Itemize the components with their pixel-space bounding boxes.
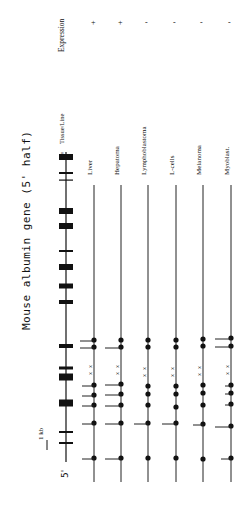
hypersensitive-site-dot [228,390,233,395]
hypersensitive-site-dot [173,420,178,425]
exon-block [59,172,73,174]
hypersensitive-site-dot [145,383,150,388]
hypersensitive-site-dot [173,404,178,409]
hypersensitive-site-dot [118,344,123,349]
hypersensitive-site-dot [173,455,178,460]
hypersensitive-site-dot [173,383,178,388]
hypersensitive-site-dot [200,456,205,461]
figure-title: Mouse albumin gene (5' half) [20,131,33,330]
x-marker: x [114,365,120,368]
x-marker: x [196,373,202,376]
hypersensitive-site-dot [145,337,150,342]
tissue-label: Hepatoma [113,146,121,175]
hypersensitive-site-dot [228,335,233,340]
hypersensitive-site-dot [145,402,150,407]
x-marker: x [169,374,175,377]
exon-block [59,367,73,370]
exon-block [59,300,73,304]
five-prime-label: 5' [60,470,70,478]
tissue-column-header: Tissue/Line [58,114,65,144]
hypersensitive-site-dot [173,391,178,396]
tissue-label: Melanoma [195,145,203,175]
exon-block [59,374,73,381]
x-marker: x [87,372,93,375]
hypersensitive-site-dot [200,382,205,387]
hypersensitive-site-dot [200,336,205,341]
expression-value: - [173,18,176,27]
hypersensitive-site-dot [200,343,205,348]
hypersensitive-site-dot [145,420,150,425]
hypersensitive-site-dot [228,343,233,348]
exon-block [59,431,73,433]
hypersensitive-site-dot [228,423,233,428]
x-marker: x [196,366,202,369]
hypersensitive-site-dot [200,421,205,426]
hypersensitive-site-dot [118,455,123,460]
expression-value: + [91,18,96,27]
hypersensitive-site-dot [91,382,96,387]
hypersensitive-site-dot [200,390,205,395]
exon-block [59,284,73,289]
expression-value: - [145,18,148,27]
hypersensitive-site-dot [91,420,96,425]
tissue-label: Myoblast. [223,147,231,175]
hypersensitive-site-dot [118,391,123,396]
hypersensitive-site-dot [118,420,123,425]
x-marker: x [141,374,147,377]
hypersensitive-site-dot [91,455,96,460]
hypersensitive-site-dot [200,402,205,407]
exon-block [59,208,73,214]
exon-block [59,180,73,181]
hypersensitive-site-dot [118,402,123,407]
x-marker: x [141,367,147,370]
hypersensitive-site-dot [118,337,123,342]
expression-value: - [228,18,231,27]
hypersensitive-site-dot [118,381,123,386]
exon-block [59,400,73,407]
hypersensitive-site-dot [145,455,150,460]
hypersensitive-site-dot [91,337,96,342]
hypersensitive-site-dot [91,402,96,407]
x-marker: x [224,372,230,375]
exon-block [59,250,73,252]
hypersensitive-site-dot [228,382,233,387]
exon-block [59,264,73,270]
expression-value: + [118,18,123,27]
x-marker: x [114,372,120,375]
exon-block [59,223,73,229]
exon-block [59,344,73,348]
hypersensitive-site-dot [228,401,233,406]
expression-value: - [200,18,203,27]
three-prime-label: 3' [60,152,70,160]
hypersensitive-site-dot [145,391,150,396]
hypersensitive-site-dot [145,344,150,349]
exon-block [59,442,73,444]
x-marker: x [169,367,175,370]
tissue-label: Lymphoblastoma [140,126,148,175]
expression-column-header: Expression [57,19,66,52]
scale-label: 1 kb [37,428,45,440]
hypersensitive-site-dot [91,392,96,397]
hypersensitive-site-dot [173,344,178,349]
hypersensitive-site-dot [91,344,96,349]
x-marker: x [87,365,93,368]
tissue-label: L-cells [168,156,176,175]
x-marker: x [224,365,230,368]
tissue-label: Liver [86,160,94,175]
hypersensitive-site-dot [173,337,178,342]
hypersensitive-site-dot [228,455,233,460]
